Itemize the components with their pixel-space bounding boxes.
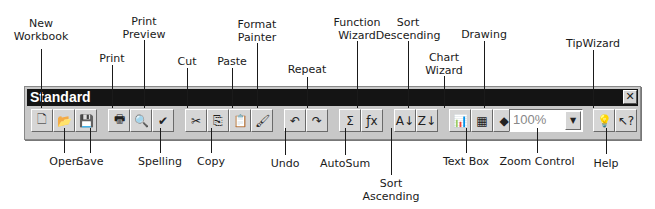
spelling-button[interactable]: ✔ xyxy=(152,109,174,132)
leader-line xyxy=(444,76,445,108)
cut-icon: ✂ xyxy=(191,114,201,128)
callout-label: Save xyxy=(76,155,103,168)
leader-line xyxy=(593,50,594,108)
new-workbook-icon: 🗋 xyxy=(37,110,47,131)
leader-line xyxy=(285,128,286,155)
callout-label: TipWizard xyxy=(566,37,620,50)
new-workbook-button[interactable]: 🗋 xyxy=(31,109,53,132)
toolbar-titlebar[interactable]: Standard ✕ xyxy=(27,89,638,106)
callout-label: AutoSum xyxy=(320,157,370,170)
autosum-button[interactable]: Σ xyxy=(339,109,361,132)
zoom-value[interactable]: 100% xyxy=(513,112,546,127)
leader-line xyxy=(64,128,65,153)
spelling-icon: ✔ xyxy=(158,114,168,128)
print-preview-button[interactable]: 🔍 xyxy=(130,109,152,132)
callout-label: Cut xyxy=(178,55,197,68)
zoom-control[interactable]: 100% ▼ xyxy=(509,109,583,132)
repeat-button[interactable]: ↷ xyxy=(306,109,328,132)
paste-button[interactable]: 📋 xyxy=(229,109,251,132)
print-preview-icon: 🔍 xyxy=(134,114,149,128)
leader-line xyxy=(211,128,212,153)
toolbar-title: Standard xyxy=(30,89,91,106)
open-icon: 📂 xyxy=(57,114,72,128)
leader-line xyxy=(537,128,538,153)
leader-line xyxy=(307,77,308,108)
drawing-icon: ◆ xyxy=(499,114,508,128)
callout-label: FunctionWizard xyxy=(334,16,381,42)
save-icon: 💾 xyxy=(79,114,94,128)
leader-line xyxy=(606,128,607,154)
cut-button[interactable]: ✂ xyxy=(185,109,207,132)
leader-line xyxy=(345,128,346,155)
chart-wizard-button[interactable]: 📊 xyxy=(449,109,471,132)
leader-line xyxy=(232,68,233,108)
tipwizard-button[interactable]: 💡 xyxy=(593,109,615,132)
sort-ascending-button[interactable]: A↓ xyxy=(394,109,416,132)
leader-line xyxy=(41,49,42,108)
callout-label: Spelling xyxy=(138,155,182,168)
leader-line xyxy=(357,41,358,108)
callout-label: Print xyxy=(99,52,124,65)
standard-toolbar: Standard ✕ 🗋📂💾🖶🔍✔✂⎘📋🖌↶↷ΣƒxA↓Z↓📊▦◆💡↖? 100… xyxy=(24,86,641,140)
close-icon[interactable]: ✕ xyxy=(623,90,637,104)
help-icon: ↖? xyxy=(618,114,634,128)
callout-label: Paste xyxy=(217,55,247,68)
leader-line xyxy=(187,68,188,108)
sort-descending-button[interactable]: Z↓ xyxy=(416,109,438,132)
chevron-down-icon[interactable]: ▼ xyxy=(565,111,581,130)
tipwizard-icon: 💡 xyxy=(597,114,612,128)
callout-label: Help xyxy=(593,157,618,170)
undo-button[interactable]: ↶ xyxy=(284,109,306,132)
sort-descending-icon: Z↓ xyxy=(418,114,436,128)
leader-line xyxy=(391,128,392,175)
format-painter-button[interactable]: 🖌 xyxy=(251,109,273,132)
leader-line xyxy=(90,128,91,153)
print-button[interactable]: 🖶 xyxy=(108,109,130,132)
leader-line xyxy=(257,43,258,108)
callout-label: SortAscending xyxy=(362,177,419,203)
sort-ascending-icon: A↓ xyxy=(396,114,414,128)
function-wizard-button[interactable]: ƒx xyxy=(361,109,383,132)
text-box-button[interactable]: ▦ xyxy=(471,109,493,132)
callout-label: SortDescending xyxy=(376,16,441,42)
callout-label: Open xyxy=(49,155,78,168)
leader-line xyxy=(408,41,409,108)
callout-label: NewWorkbook xyxy=(14,17,69,43)
copy-icon: ⎘ xyxy=(213,114,223,128)
print-icon: 🖶 xyxy=(114,110,125,131)
callout-label: Repeat xyxy=(288,63,327,76)
format-painter-icon: 🖌 xyxy=(255,114,270,128)
save-button[interactable]: 💾 xyxy=(75,109,97,132)
callout-label: PrintPreview xyxy=(123,15,166,41)
leader-line xyxy=(144,40,145,108)
help-button[interactable]: ↖? xyxy=(615,109,637,132)
text-box-icon: ▦ xyxy=(476,114,487,128)
callout-label: ChartWizard xyxy=(425,51,463,77)
paste-icon: 📋 xyxy=(233,114,248,128)
leader-line xyxy=(466,128,467,153)
callout-label: Copy xyxy=(197,155,225,168)
callout-label: Drawing xyxy=(461,28,507,41)
callout-label: Undo xyxy=(271,157,300,170)
chart-wizard-icon: 📊 xyxy=(453,114,468,128)
callout-label: Text Box xyxy=(443,155,489,168)
leader-line xyxy=(112,65,113,108)
leader-line xyxy=(160,128,161,153)
leader-line xyxy=(484,41,485,108)
function-wizard-icon: ƒx xyxy=(366,114,377,128)
callout-label: Zoom Control xyxy=(500,155,575,168)
repeat-icon: ↷ xyxy=(312,114,322,128)
autosum-icon: Σ xyxy=(346,114,354,128)
undo-icon: ↶ xyxy=(290,114,300,128)
callout-label: FormatPainter xyxy=(238,18,277,44)
